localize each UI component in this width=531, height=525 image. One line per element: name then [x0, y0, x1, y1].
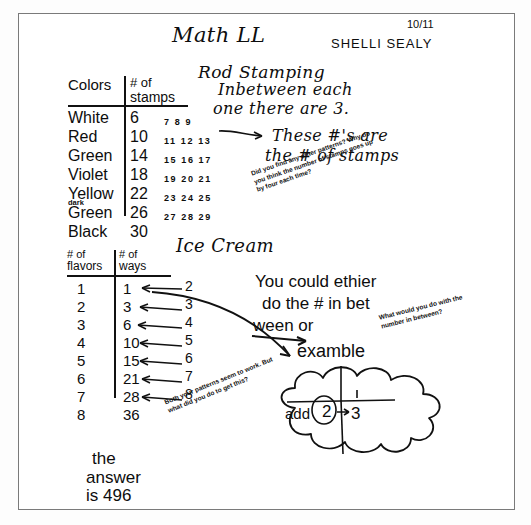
table-cell-stamps: 26 — [130, 204, 148, 222]
student-name: SHELLI SEALY — [331, 36, 432, 51]
table-cell-stamps: 14 — [130, 147, 148, 165]
teacher-comment-line-2: do the # in bet — [262, 294, 370, 314]
table-cell-ways: 3 — [123, 298, 131, 315]
section-heading-ice-cream: Ice Cream — [176, 235, 274, 256]
table-header-colors: Colors — [68, 76, 111, 93]
table-cell-stamps: 22 — [130, 185, 148, 203]
table-cell-ways: 21 — [123, 370, 140, 387]
page-title: Math LL — [172, 23, 265, 47]
section-heading-rod-stamping: Rod Stamping — [198, 62, 325, 82]
table-cell-stamps: 18 — [130, 166, 148, 184]
table-cell-between-numbers: 7 8 9 — [164, 117, 192, 127]
table-row: Red — [68, 128, 97, 146]
teacher-comment-line-1: You could ethier — [255, 272, 376, 292]
table-row: 3 — [77, 316, 85, 333]
table-cell-ways: 36 — [123, 406, 140, 423]
table-cell-stamps: 10 — [130, 128, 148, 146]
table-row: Green — [68, 204, 112, 222]
date-label: 10/11 — [407, 18, 434, 30]
table-cell-ways: 1 — [123, 280, 131, 297]
table-cell-between-numbers: 11 12 13 — [164, 136, 211, 146]
table-row: White — [68, 109, 109, 127]
table-row: 4 — [77, 334, 85, 351]
table-row: 8 — [77, 406, 85, 423]
small-arrow-icon — [337, 409, 349, 415]
table-header-stamps-line2: stamps — [130, 89, 175, 105]
cloud-second-number: 3 — [351, 404, 360, 424]
table-header-underline — [68, 105, 188, 107]
answer-line-1: the — [92, 449, 116, 469]
table-cell-stamps: 6 — [130, 109, 139, 127]
answer-line-2: answer — [86, 468, 141, 488]
table-cell-between-numbers: 23 24 25 — [164, 193, 212, 203]
table-cell-ways: 6 — [123, 316, 131, 333]
table-row: 7 — [77, 388, 85, 405]
arrow-icon — [218, 128, 266, 140]
table-cell-between-numbers: 27 28 29 — [164, 212, 212, 222]
table-row: 5 — [77, 352, 85, 369]
table-row: 2 — [77, 298, 85, 315]
table-header-stamps-line1: # of — [130, 75, 152, 90]
table-cell-difference: 7 — [185, 368, 193, 384]
table-row: Green — [68, 147, 112, 165]
table-cell-between-numbers: 19 20 21 — [164, 174, 212, 184]
cloud-first-number: 2 — [322, 402, 331, 422]
table-row: 6 — [77, 370, 85, 387]
rod-note-line-1: Inbetween each — [218, 80, 353, 99]
table-row: Violet — [68, 166, 108, 184]
ice-header-underline — [67, 275, 171, 277]
example-label: examble — [297, 341, 365, 362]
ice-header-ways-line2: ways — [119, 259, 146, 273]
table-row: 1 — [77, 280, 85, 297]
answer-line-3: is 496 — [86, 486, 131, 506]
table-cell-ways: 28 — [123, 388, 140, 405]
table-cell-stamps: 30 — [130, 223, 148, 241]
ice-vertical-divider — [114, 250, 116, 398]
difference-arrow-icon — [139, 376, 183, 385]
worksheet-page: Math LL SHELLI SEALY 10/11 Rod Stamping … — [0, 0, 531, 525]
cloud-add-label: add — [285, 405, 310, 422]
table-vertical-divider — [124, 76, 126, 216]
table-row: Black — [68, 223, 107, 241]
ice-header-flavors-line2: flavors — [67, 259, 102, 273]
table-cell-between-numbers: 15 16 17 — [164, 155, 212, 165]
rod-note-line-2: one there are 3. — [213, 99, 349, 118]
